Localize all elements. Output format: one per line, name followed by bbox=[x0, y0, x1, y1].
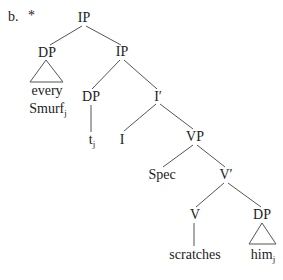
trace-index: j bbox=[93, 139, 96, 149]
leaf-trace: tj bbox=[89, 132, 95, 148]
leaf-him: himj bbox=[251, 247, 275, 263]
node-dp-subject: DP bbox=[38, 45, 56, 61]
node-dp-trace: DP bbox=[82, 89, 100, 105]
example-label: b. bbox=[8, 9, 19, 25]
smurf-index: j bbox=[64, 108, 67, 118]
leaf-every: every bbox=[31, 83, 62, 99]
syntax-tree-diagram: b. * IP DP every Smurfj IP DP tj I′ I VP… bbox=[0, 0, 283, 280]
node-ip-root: IP bbox=[78, 10, 90, 26]
him-index: j bbox=[273, 254, 276, 264]
node-i-bar: I′ bbox=[154, 89, 162, 105]
smurf-word: Smurf bbox=[29, 101, 64, 116]
node-vp: VP bbox=[186, 129, 204, 145]
node-spec: Spec bbox=[148, 167, 175, 183]
node-ip-mid: IP bbox=[116, 44, 128, 60]
him-word: him bbox=[251, 247, 273, 262]
leaf-scratches: scratches bbox=[169, 247, 220, 263]
node-i-head: I bbox=[120, 132, 125, 148]
ungrammatical-mark: * bbox=[28, 8, 35, 24]
node-v-head: V bbox=[190, 207, 200, 223]
node-v-bar: V′ bbox=[219, 167, 232, 183]
leaf-smurf: Smurfj bbox=[29, 101, 67, 117]
tree-branches bbox=[0, 0, 283, 280]
node-dp-object: DP bbox=[253, 207, 271, 223]
